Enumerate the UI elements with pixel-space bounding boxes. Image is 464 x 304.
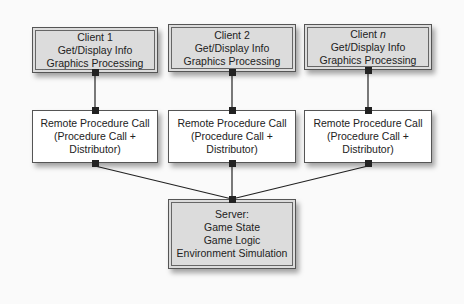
port-icon: [229, 196, 236, 203]
client-2-title: Client 2: [169, 29, 295, 42]
rpc-n-line1: Remote Procedure Call: [305, 117, 431, 130]
rpc-n-line2: (Procedure Call +: [305, 130, 431, 143]
server-line1: Server:: [169, 208, 295, 221]
port-icon: [365, 160, 372, 167]
server-line3: Game Logic: [169, 234, 295, 247]
client-n-title-italic: n: [380, 28, 386, 40]
port-icon: [92, 107, 99, 114]
client-2-box: Client 2 Get/Display Info Graphics Proce…: [168, 24, 296, 72]
server-line2: Game State: [169, 221, 295, 234]
port-icon: [229, 160, 236, 167]
server-line4: Environment Simulation: [169, 247, 295, 260]
port-icon: [92, 69, 99, 76]
port-icon: [92, 160, 99, 167]
client-2-line2: Get/Display Info: [169, 42, 295, 55]
rpc-n-box: Remote Procedure Call (Procedure Call + …: [304, 110, 432, 163]
rpc-1-line3: Distributor): [33, 143, 157, 156]
client-n-title-prefix: Client: [350, 28, 380, 40]
port-icon: [229, 107, 236, 114]
rpc-1-line2: (Procedure Call +: [33, 130, 157, 143]
port-icon: [365, 107, 372, 114]
rpc-2-line3: Distributor): [169, 143, 295, 156]
client-1-box: Client 1 Get/Display Info Graphics Proce…: [32, 27, 158, 73]
client-1-line2: Get/Display Info: [33, 44, 157, 57]
port-icon: [229, 69, 236, 76]
client-n-line2: Get/Display Info: [305, 41, 431, 54]
rpc-2-line1: Remote Procedure Call: [169, 117, 295, 130]
server-box: Server: Game State Game Logic Environmen…: [168, 199, 296, 269]
rpc-2-box: Remote Procedure Call (Procedure Call + …: [168, 110, 296, 163]
client-2-line3: Graphics Processing: [169, 55, 295, 68]
client-1-line3: Graphics Processing: [33, 57, 157, 70]
client-n-box: Client n Get/Display Info Graphics Proce…: [304, 24, 432, 70]
rpc-2-line2: (Procedure Call +: [169, 130, 295, 143]
client-n-line3: Graphics Processing: [305, 54, 431, 67]
rpc-1-box: Remote Procedure Call (Procedure Call + …: [32, 110, 158, 163]
port-icon: [365, 67, 372, 74]
client-n-title: Client n: [305, 28, 431, 41]
client-1-title: Client 1: [33, 31, 157, 44]
rpc-n-line3: Distributor): [305, 143, 431, 156]
rpc-1-line1: Remote Procedure Call: [33, 117, 157, 130]
